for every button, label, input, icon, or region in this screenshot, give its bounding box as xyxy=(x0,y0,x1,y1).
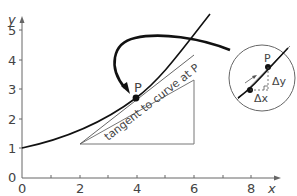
dx-label: Δx xyxy=(254,92,269,105)
dy-label: Δy xyxy=(272,75,287,88)
x-axis-label: x xyxy=(267,181,276,196)
y-axis-arrow-icon xyxy=(20,16,25,23)
x-tick-4: 4 xyxy=(133,181,141,196)
x-tick-6: 6 xyxy=(190,181,198,196)
y-tick-2: 2 xyxy=(8,112,16,127)
x-tick-0: 0 xyxy=(18,181,26,196)
point-p-label: P xyxy=(134,80,142,95)
y-tick-0: 0 xyxy=(8,170,16,185)
x-tick-8: 8 xyxy=(247,181,255,196)
x-tick-2: 2 xyxy=(76,181,84,196)
point-p xyxy=(133,95,140,102)
inset-p-label: P xyxy=(264,52,271,65)
tangent-diagram: 0 1 2 3 4 5 y 0 2 4 6 8 x tangent to cur… xyxy=(0,0,297,196)
y-axis-label: y xyxy=(7,12,16,27)
y-tick-1: 1 xyxy=(8,141,16,156)
x-axis-arrow-icon xyxy=(274,176,281,181)
y-tick-3: 3 xyxy=(8,82,16,97)
y-tick-4: 4 xyxy=(8,53,16,68)
